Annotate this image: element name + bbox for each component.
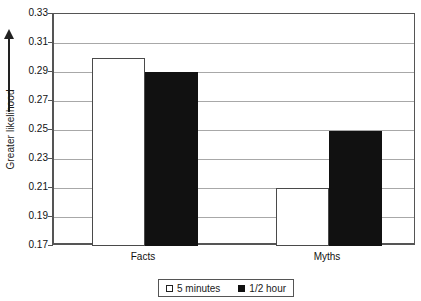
y-tick-label: 0.17 (16, 240, 48, 250)
y-tick-mark (48, 13, 53, 14)
y-tick-label: 0.21 (16, 182, 48, 192)
y-tick-mark (48, 42, 53, 43)
y-tick-mark (48, 187, 53, 188)
legend-item-1: 1/2 hour (238, 283, 286, 294)
white-square-icon (166, 285, 173, 292)
legend-label: 1/2 hour (249, 283, 286, 294)
bar-myths-1-2-hour (329, 131, 382, 246)
y-tick-label: 0.27 (16, 95, 48, 105)
bar-facts-5-minutes (92, 58, 145, 247)
y-tick-mark (48, 158, 53, 159)
legend-label: 5 minutes (177, 283, 220, 294)
y-tick-mark (48, 245, 53, 246)
black-square-icon (238, 285, 245, 292)
bar-myths-5-minutes (276, 188, 329, 246)
plot-area (52, 13, 415, 245)
gridline (54, 43, 414, 44)
legend-item-0: 5 minutes (166, 283, 220, 294)
y-tick-label: 0.29 (16, 66, 48, 76)
x-category-label-facts: Facts (103, 251, 183, 262)
y-tick-label: 0.31 (16, 37, 48, 47)
y-tick-mark (48, 129, 53, 130)
y-tick-label: 0.19 (16, 211, 48, 221)
bar-chart: Greater likelihood 0.330.310.290.270.250… (0, 0, 421, 301)
chart-legend: 5 minutes1/2 hour (158, 279, 294, 297)
x-category-label-myths: Myths (287, 251, 367, 262)
y-tick-mark (48, 71, 53, 72)
y-tick-mark (48, 100, 53, 101)
bar-facts-1-2-hour (145, 72, 198, 246)
y-axis-ticks: 0.330.310.290.270.250.230.210.190.17 (14, 0, 48, 301)
y-tick-label: 0.33 (16, 8, 48, 18)
y-tick-label: 0.25 (16, 124, 48, 134)
y-tick-label: 0.23 (16, 153, 48, 163)
y-tick-mark (48, 216, 53, 217)
